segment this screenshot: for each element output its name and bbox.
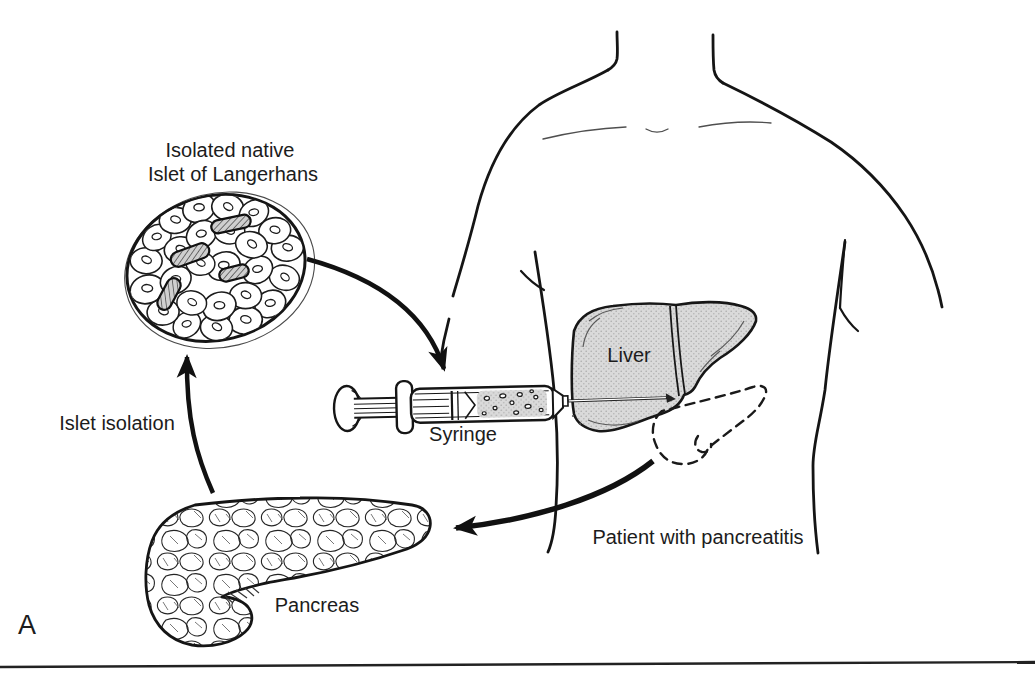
arrow-islet-isolation bbox=[187, 357, 213, 493]
neck-right-line bbox=[713, 35, 723, 83]
pancreas-notch-dashed bbox=[695, 436, 711, 452]
islet-isolation-label: Islet isolation bbox=[59, 412, 175, 434]
shoulder-arm-left-line bbox=[453, 70, 608, 296]
figure-bottom-rule bbox=[0, 662, 1035, 667]
patient-label: Patient with pancreatitis bbox=[592, 526, 803, 548]
islet-illustration bbox=[107, 168, 332, 368]
pancreas-label: Pancreas bbox=[275, 594, 360, 616]
neck-left-line bbox=[608, 32, 617, 70]
liver-illustration bbox=[572, 302, 756, 431]
pancreas-illustration bbox=[146, 498, 430, 646]
panel-letter: A bbox=[18, 610, 36, 640]
shoulder-arm-right-line bbox=[723, 83, 942, 307]
islet-title-line2: Islet of Langerhans bbox=[148, 163, 318, 185]
islet-transplantation-figure: Isolated native Islet of Langerhans Isle… bbox=[0, 0, 1035, 687]
diagram-canvas: Isolated native Islet of Langerhans Isle… bbox=[0, 0, 1035, 687]
syringe-label: Syringe bbox=[429, 423, 497, 445]
liver-label: Liver bbox=[607, 344, 651, 366]
armpit-fold-right bbox=[840, 308, 858, 331]
liver-shape bbox=[572, 302, 756, 431]
patient-body-outline bbox=[440, 32, 942, 553]
syringe-nose bbox=[553, 389, 564, 418]
islet-title-line1: Isolated native bbox=[166, 139, 295, 161]
clavicle-lines bbox=[543, 122, 771, 139]
pancreas-shape bbox=[146, 498, 430, 646]
islet-suspension-fluid bbox=[477, 389, 548, 418]
islet-cells bbox=[109, 170, 323, 363]
arrow-islet-to-syringe bbox=[307, 259, 444, 369]
plunger-rod bbox=[354, 397, 399, 418]
